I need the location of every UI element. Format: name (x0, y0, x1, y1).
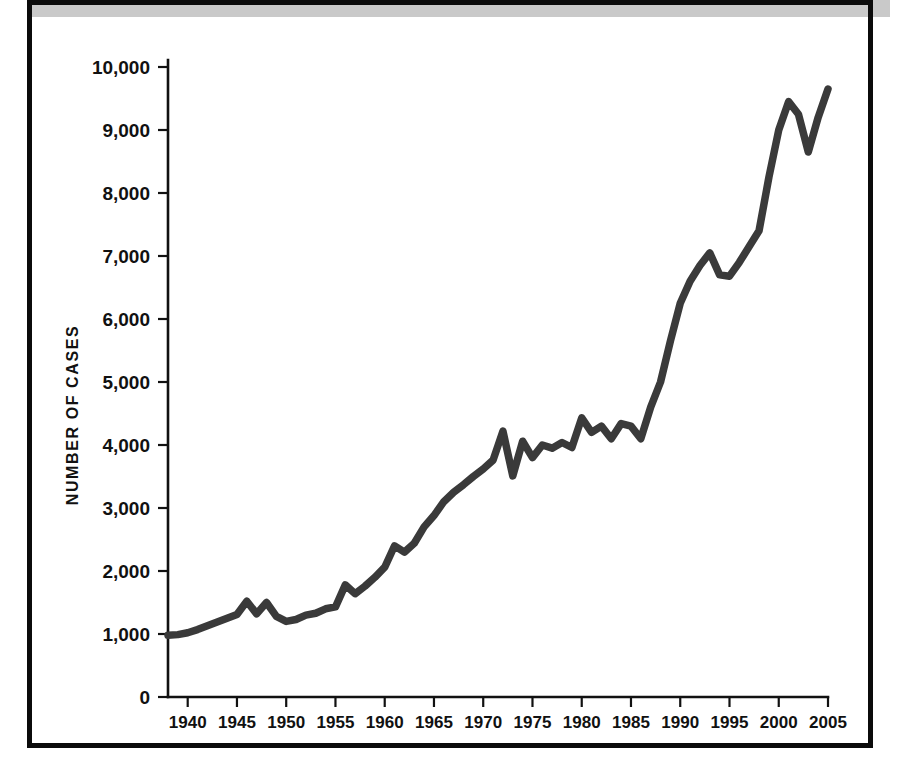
y-tick-label: 10,000 (92, 57, 150, 78)
x-tick-label: 1975 (514, 713, 552, 732)
x-tick-label: 1950 (267, 713, 305, 732)
x-tick-label: 1985 (612, 713, 650, 732)
y-tick-label: 8,000 (102, 183, 150, 204)
x-axis-tick-labels: 1940194519501955196019651970197519801985… (169, 713, 847, 732)
x-axis-tick-marks (188, 697, 828, 707)
y-axis-tick-marks (158, 67, 168, 697)
figure-page: 10,0009,0008,0007,0006,0005,0004,0003,00… (0, 0, 900, 779)
x-tick-label: 1945 (218, 713, 256, 732)
line-chart: 10,0009,0008,0007,0006,0005,0004,0003,00… (0, 0, 900, 779)
y-tick-label: 3,000 (102, 498, 150, 519)
y-tick-label: 7,000 (102, 246, 150, 267)
y-tick-label: 0 (139, 687, 150, 708)
x-tick-label: 1970 (464, 713, 502, 732)
x-tick-label: 1995 (711, 713, 749, 732)
x-tick-label: 2000 (760, 713, 798, 732)
x-tick-label: 2005 (809, 713, 847, 732)
y-tick-label: 5,000 (102, 372, 150, 393)
x-tick-label: 1965 (415, 713, 453, 732)
y-tick-label: 1,000 (102, 624, 150, 645)
x-tick-label: 1955 (317, 713, 355, 732)
x-tick-label: 1990 (661, 713, 699, 732)
y-tick-label: 4,000 (102, 435, 150, 456)
x-tick-label: 1980 (563, 713, 601, 732)
y-tick-label: 2,000 (102, 561, 150, 582)
chart-plot-area: 10,0009,0008,0007,0006,0005,0004,0003,00… (0, 0, 900, 779)
y-axis-tick-labels: 10,0009,0008,0007,0006,0005,0004,0003,00… (92, 57, 150, 708)
x-tick-label: 1940 (169, 713, 207, 732)
y-tick-label: 9,000 (102, 120, 150, 141)
y-axis-title: NUMBER OF CASES (64, 325, 81, 505)
y-tick-label: 6,000 (102, 309, 150, 330)
data-series-line (168, 89, 828, 635)
x-tick-label: 1960 (366, 713, 404, 732)
